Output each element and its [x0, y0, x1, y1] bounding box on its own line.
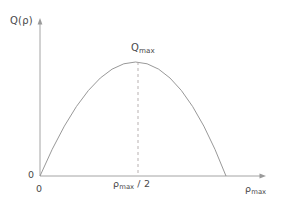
x-axis-label: ρmax — [245, 184, 266, 196]
y-axis-label: Q(ρ) — [10, 16, 33, 26]
x-axis-label-subscript: max — [251, 188, 266, 196]
x-tick-label-half-density: ρmax / 2 — [113, 179, 150, 191]
x-axis-origin-label: 0 — [36, 184, 42, 194]
x-axis-arrowhead — [260, 174, 267, 179]
x-tick-half-subscript: max — [119, 183, 134, 191]
peak-label-base: Q — [131, 42, 139, 53]
x-tick-half-suffix: / 2 — [134, 178, 150, 189]
fundamental-diagram-figure: Q(ρ) Qmax ρmax / 2 ρmax 0 0 — [0, 0, 283, 203]
y-axis-arrowhead — [38, 18, 43, 25]
y-axis-origin-label: 0 — [28, 170, 34, 180]
peak-value-label: Qmax — [131, 43, 155, 54]
peak-label-subscript: max — [139, 46, 155, 55]
flow-density-curve — [40, 62, 226, 176]
plot-canvas — [0, 0, 283, 203]
